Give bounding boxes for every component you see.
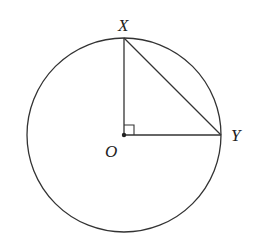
- label-o: O: [105, 142, 117, 161]
- center-point-o: [122, 133, 126, 137]
- chord-xy: [124, 38, 221, 135]
- circle-diagram: X O Y: [0, 0, 258, 242]
- label-y: Y: [231, 126, 242, 145]
- label-x: X: [117, 16, 129, 35]
